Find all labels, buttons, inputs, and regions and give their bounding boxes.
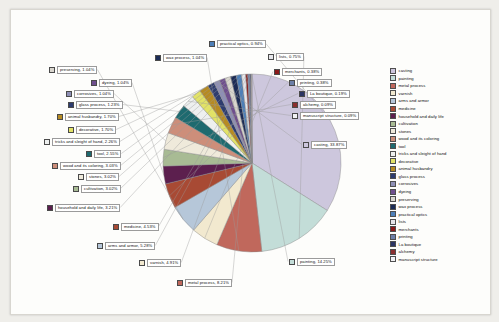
slice-swatch-icon — [113, 224, 119, 230]
legend-item[interactable]: dyeing — [390, 188, 486, 196]
legend-swatch-icon — [390, 151, 396, 157]
slice-swatch-icon — [66, 91, 72, 97]
legend-item[interactable]: wood and its coloring — [390, 135, 486, 143]
slice-label-text: tool, 2.55% — [94, 150, 121, 158]
slice-swatch-icon — [49, 67, 55, 73]
pie-slice-label[interactable]: tool, 2.55% — [86, 150, 121, 158]
legend-item[interactable]: stones — [390, 127, 486, 135]
slice-label-text: preserving, 1.04% — [57, 66, 97, 74]
pie-slice-label[interactable]: varnish, 4.91% — [139, 259, 181, 267]
legend-swatch-icon — [390, 113, 396, 119]
legend-item[interactable]: arms and armor — [390, 97, 486, 105]
legend-item-label: animal husbandry — [399, 166, 433, 171]
legend-item[interactable]: cultivation — [390, 120, 486, 128]
legend-item-label: household and daily life — [399, 114, 444, 119]
slice-swatch-icon — [292, 113, 298, 119]
legend-item-label: wax process — [399, 204, 423, 209]
pie-slice-label[interactable]: manuscript structure, 0.09% — [292, 112, 359, 120]
leader-line — [132, 83, 164, 176]
slice-label-text: alchemy, 0.09% — [300, 101, 336, 109]
slice-swatch-icon — [299, 91, 305, 97]
pie-slice-label[interactable]: cultivation, 3.02% — [73, 185, 121, 193]
legend-swatch-icon — [390, 158, 396, 164]
slice-label-text: stones, 3.02% — [86, 173, 119, 181]
legend-item[interactable]: decorative — [390, 158, 486, 166]
chart-canvas: practical optics, 0.94%lists, 0.75%wax p… — [10, 9, 491, 315]
slice-label-text: corrosives, 1.04% — [74, 90, 114, 98]
pie-slice-label[interactable]: decorative, 1.70% — [68, 126, 116, 134]
pie-slice-label[interactable]: tricks and sleight of hand, 2.26% — [44, 138, 120, 146]
slice-swatch-icon — [78, 174, 84, 180]
slice-swatch-icon — [73, 186, 79, 192]
pie-slice-label[interactable]: La boutique, 0.19% — [299, 90, 350, 98]
legend-item[interactable]: tricks and sleight of hand — [390, 150, 486, 158]
pie-chart — [161, 72, 343, 254]
pie-slice-label[interactable]: animal husbandry, 1.70% — [57, 113, 119, 121]
legend-swatch-icon — [390, 166, 396, 172]
legend-item[interactable]: corrosives — [390, 180, 486, 188]
slice-label-text: wax process, 1.04% — [163, 54, 207, 62]
pie-slice-label[interactable]: household and daily life, 3.21% — [47, 204, 120, 212]
legend-item[interactable]: lists — [390, 218, 486, 226]
slice-label-text: casting, 33.87% — [311, 141, 347, 149]
legend-item-label: cultivation — [399, 121, 418, 126]
legend-item[interactable]: household and daily life — [390, 112, 486, 120]
pie-slice-label[interactable]: lists, 0.75% — [268, 53, 304, 61]
legend-item-label: alchemy — [399, 249, 415, 254]
legend-item[interactable]: animal husbandry — [390, 165, 486, 173]
slice-label-text: lists, 0.75% — [276, 53, 304, 61]
pie-slice-label[interactable]: glass process, 1.23% — [68, 101, 123, 109]
pie-slice-label[interactable]: wood and its coloring, 3.03% — [52, 162, 121, 170]
slice-swatch-icon — [86, 151, 92, 157]
slice-swatch-icon — [177, 280, 183, 286]
legend-swatch-icon — [390, 196, 396, 202]
legend-item[interactable]: glass process — [390, 173, 486, 181]
legend-swatch-icon — [390, 219, 396, 225]
legend-swatch-icon — [390, 211, 396, 217]
pie-slice-label[interactable]: alchemy, 0.09% — [292, 101, 336, 109]
pie-slice-label[interactable]: dyeing, 1.04% — [91, 79, 132, 87]
legend-item[interactable]: medicine — [390, 105, 486, 113]
slice-label-text: household and daily life, 3.21% — [55, 204, 120, 212]
legend-item[interactable]: manuscript structure — [390, 256, 486, 264]
pie-slice-label[interactable]: painting, 14.25% — [289, 258, 335, 266]
legend-item[interactable]: preserving — [390, 195, 486, 203]
legend-item[interactable]: alchemy — [390, 248, 486, 256]
slice-label-text: dyeing, 1.04% — [99, 79, 132, 87]
slice-label-text: tricks and sleight of hand, 2.26% — [52, 138, 120, 146]
pie-slice-label[interactable]: casting, 33.87% — [303, 141, 347, 149]
legend-item-label: manuscript structure — [399, 257, 438, 262]
legend-item[interactable]: wax process — [390, 203, 486, 211]
pie-slice-label[interactable]: preserving, 1.04% — [49, 66, 97, 74]
slice-label-text: merchants, 0.38% — [282, 68, 322, 76]
pie-slice-label[interactable]: merchants, 0.38% — [274, 68, 322, 76]
pie-slice-label[interactable]: wax process, 1.04% — [155, 54, 207, 62]
pie-slice-label[interactable]: medicine, 4.53% — [113, 223, 159, 231]
legend-swatch-icon — [390, 226, 396, 232]
legend-item-label: lists — [399, 219, 407, 224]
pie-slice-label[interactable]: metal process, 8.21% — [177, 279, 232, 287]
legend-swatch-icon — [390, 189, 396, 195]
slice-label-text: practical optics, 0.94% — [217, 40, 266, 48]
slice-swatch-icon — [289, 80, 295, 86]
pie-slice-label[interactable]: printing, 0.38% — [289, 79, 332, 87]
slice-swatch-icon — [57, 114, 63, 120]
legend-item[interactable]: La boutique — [390, 241, 486, 249]
legend-item[interactable]: casting — [390, 67, 486, 75]
pie-slice-label[interactable]: arms and armor, 5.28% — [97, 242, 155, 250]
pie-slice-label[interactable]: corrosives, 1.04% — [66, 90, 114, 98]
legend-item[interactable]: metal process — [390, 82, 486, 90]
legend-item[interactable]: merchants — [390, 225, 486, 233]
legend-item[interactable]: printing — [390, 233, 486, 241]
legend-item[interactable]: varnish — [390, 90, 486, 98]
legend-item[interactable]: painting — [390, 75, 486, 83]
legend-item[interactable]: tool — [390, 142, 486, 150]
slice-swatch-icon — [91, 80, 97, 86]
legend-swatch-icon — [390, 143, 396, 149]
legend-item[interactable]: practical optics — [390, 210, 486, 218]
slice-label-text: printing, 0.38% — [297, 79, 332, 87]
pie-slice-label[interactable]: practical optics, 0.94% — [209, 40, 266, 48]
legend-item-label: tool — [399, 144, 406, 149]
legend-swatch-icon — [390, 98, 396, 104]
pie-slice-label[interactable]: stones, 3.02% — [78, 173, 119, 181]
